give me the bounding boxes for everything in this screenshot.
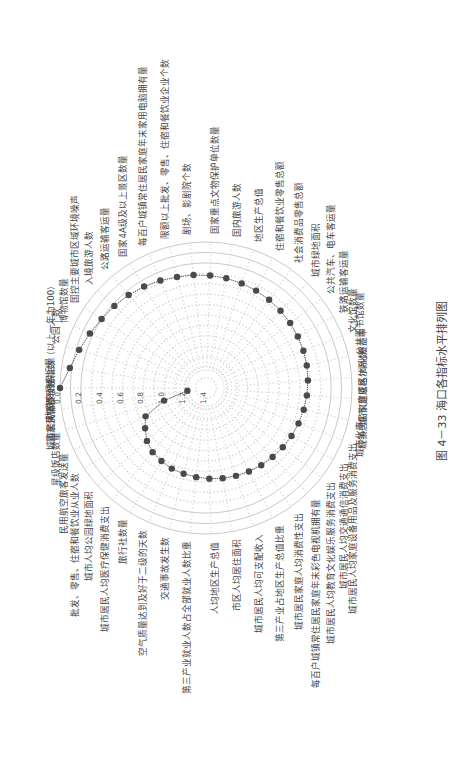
data-point-marker: [206, 475, 212, 481]
radial-tick-label: 0.6: [116, 392, 125, 404]
data-point-marker: [300, 348, 306, 354]
data-point-marker: [266, 297, 272, 303]
category-label: 城市居民人均交通通信消费支出: [338, 463, 349, 589]
data-point-marker: [305, 377, 311, 383]
data-point-marker: [269, 454, 275, 460]
data-point-marker: [288, 433, 294, 439]
data-point-marker: [174, 274, 180, 280]
data-point-marker: [144, 438, 150, 444]
category-label: 剧场、影剧院个数: [181, 163, 192, 235]
data-point-marker: [219, 475, 225, 481]
category-label: 城市居民人均教育文化娱乐服务消费支出: [325, 482, 336, 644]
data-series-line: [57, 272, 311, 482]
category-label: 博物馆数量: [58, 278, 69, 323]
data-point-marker: [111, 303, 117, 309]
category-label: 第三产业占地区生产总值比重: [274, 525, 285, 642]
category-label: 住宿和餐饮业零售总额: [274, 161, 285, 251]
data-point-marker: [142, 425, 148, 431]
data-point-marker: [233, 473, 239, 479]
category-label: 每百户城镇常住居民家庭年末家用电脑拥有量: [137, 66, 148, 246]
category-label: 地区生产总值: [253, 188, 264, 242]
data-point-marker: [149, 449, 155, 455]
category-label: 国内旅游人数: [231, 183, 242, 237]
data-point-marker: [180, 471, 186, 477]
data-point-marker: [141, 283, 147, 289]
category-label: 公路运输客运量: [99, 207, 110, 270]
data-point-marker: [142, 413, 148, 419]
category-label: 限额以上批发、零售、住宿和餐饮业企业个数: [159, 59, 170, 239]
category-label: 批发、零售、住宿和餐饮业从业人数: [69, 473, 80, 617]
data-point-marker: [76, 347, 82, 353]
category-label: 国家4A级及以上景区数量: [117, 155, 128, 256]
data-point-marker: [295, 333, 301, 339]
category-label: 铁路运输客运量: [338, 250, 349, 313]
data-point-marker: [169, 465, 175, 471]
category-label: 旅行社数量: [117, 519, 128, 564]
radial-tick-label: 0.4: [95, 392, 104, 404]
data-point-marker: [304, 362, 310, 368]
data-point-marker: [190, 272, 196, 278]
data-point-marker: [280, 444, 286, 450]
category-label: 人均地区生产总值: [209, 542, 220, 614]
radial-tick-label: 0.2: [74, 392, 83, 404]
data-point-marker: [246, 468, 252, 474]
category-label: 每百户城镇常住居民家庭年末彩色电视机拥有量: [310, 499, 321, 688]
data-point-marker: [193, 474, 199, 480]
data-point-marker: [238, 280, 244, 286]
data-point-marker: [223, 275, 229, 281]
data-point-marker: [295, 420, 301, 426]
category-label: 公共汽车、电车客运量: [325, 204, 336, 294]
category-label: 国控主要城市区域环境噪声: [69, 195, 80, 303]
radar-chart: 0.00.20.40.60.81.01.21.4 轨道交通客运量城市居民消费价格…: [0, 0, 467, 762]
data-point-marker: [207, 272, 213, 278]
data-point-marker: [98, 316, 104, 322]
category-label: 入境旅游人数: [83, 231, 94, 285]
category-label: 国家荣誉称号数: [45, 379, 56, 442]
category-label: 城市绿地面积: [310, 223, 321, 277]
data-point-marker: [125, 292, 131, 298]
data-point-marker: [277, 307, 283, 313]
category-label: 城市居民家庭人均消费性支出: [293, 513, 304, 630]
category-label: 城市居民人均可支配收入: [253, 534, 264, 633]
data-point-marker: [87, 330, 93, 336]
data-point-marker: [57, 385, 63, 391]
data-point-marker: [301, 407, 307, 413]
category-label: 城市居民人均医疗保健消费支出: [99, 506, 110, 632]
radial-tick-label: 0.8: [136, 392, 145, 404]
category-label: 市区人均居住面积: [231, 539, 242, 611]
data-point-marker: [184, 388, 190, 394]
data-point-marker: [157, 277, 163, 283]
category-label: 第三产业就业人数占全部就业人数比重: [181, 541, 192, 694]
data-point-marker: [258, 462, 264, 468]
data-point-marker: [253, 287, 259, 293]
data-point-marker: [158, 458, 164, 464]
book-page: 0.00.20.40.60.81.01.21.4 轨道交通客运量城市居民消费价格…: [0, 0, 467, 762]
category-label: 社会消费品零售总额: [293, 182, 304, 263]
figure-caption: 图 4－33 海口各指标水平排列图: [435, 301, 449, 461]
category-label: 城市居民人均家庭设备用品及服务消费支出: [347, 443, 358, 614]
category-label: 交通事故发生数: [159, 537, 170, 600]
category-label: 空气质量达到及好于二级的天数: [137, 530, 148, 656]
data-point-marker: [304, 392, 310, 398]
data-point-marker: [67, 365, 73, 371]
radial-tick-labels: 0.00.20.40.60.81.01.21.4: [53, 392, 208, 404]
data-point-marker: [287, 320, 293, 326]
category-label: 城市人均公园绿地面积: [83, 491, 94, 581]
radial-tick-label: 1.4: [199, 392, 208, 404]
category-label: 国家重点文物保护单位数量: [209, 126, 220, 234]
data-point-marker: [161, 397, 167, 403]
